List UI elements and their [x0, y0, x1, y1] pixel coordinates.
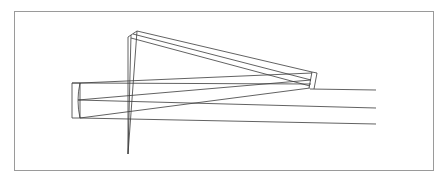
light-ray: [133, 34, 311, 80]
light-ray: [80, 73, 312, 83]
secondary-mirror-edge: [312, 72, 317, 73]
light-ray: [131, 38, 310, 86]
light-ray: [80, 88, 310, 118]
light-ray: [80, 118, 376, 124]
diagram-frame: [15, 12, 434, 171]
light-rays: [72, 31, 376, 124]
fold-mirror-edge: [128, 31, 137, 37]
secondary-mirror-edge: [314, 73, 317, 89]
optical-elements: [72, 31, 317, 154]
light-ray: [310, 89, 376, 90]
light-ray: [137, 31, 312, 72]
optical-diagram: [0, 0, 447, 178]
light-ray: [78, 100, 376, 108]
